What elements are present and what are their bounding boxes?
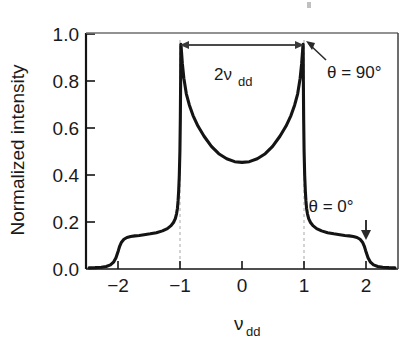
y-tick-marks (86, 34, 95, 222)
x-tick-label-1: 1 (299, 275, 310, 296)
x-tick-label-2: 2 (361, 275, 372, 296)
x-axis-label-subscript: dd (246, 324, 260, 339)
x-tick-label-minus-1: −1 (169, 275, 191, 296)
y-tick-label-0_2: 0.2 (53, 212, 79, 233)
theta-0-arrowhead (361, 230, 371, 240)
annotation-2nudd-subscript: dd (238, 74, 252, 89)
y-tick-label-0_8: 0.8 (53, 71, 79, 92)
x-axis-label: ν dd (234, 313, 260, 339)
annotation-theta-0-label: θ = 0° (308, 197, 353, 216)
y-tick-label-1: 1.0 (53, 24, 79, 45)
x-tick-label-0: 0 (237, 275, 248, 296)
annotation-2nudd-label: 2ν (214, 65, 232, 84)
y-tick-label-0_4: 0.4 (53, 165, 80, 186)
x-axis-label-main: ν (234, 313, 244, 334)
y-axis-label: Normalized intensity (7, 64, 28, 236)
chart-svg: Normalized intensity 1.0 0.8 0.6 0.4 0.2… (0, 0, 419, 342)
annotation-theta-90-label: θ = 90° (327, 63, 382, 82)
x-tick-marks (118, 261, 366, 269)
annotation-span-2nudd: 2ν dd (180, 41, 304, 89)
pake-doublet-figure: Normalized intensity 1.0 0.8 0.6 0.4 0.2… (0, 0, 419, 342)
y-tick-label-0_6: 0.6 (53, 118, 79, 139)
annotation-theta-90: θ = 90° (306, 41, 382, 82)
scan-artifact-speck (307, 2, 311, 8)
y-tick-label-0: 0.0 (53, 259, 79, 280)
x-tick-label-minus-2: −2 (107, 275, 129, 296)
